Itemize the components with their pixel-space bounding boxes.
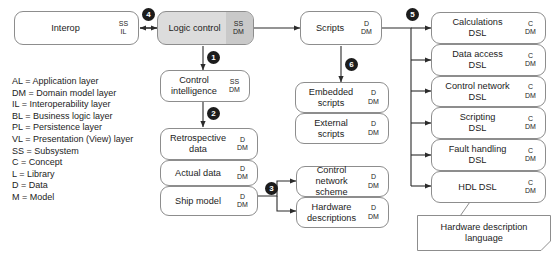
node-hardware-descriptions-title: Hardware descriptions xyxy=(297,202,361,224)
node-control-network-scheme[interactable]: Control network scheme D DM xyxy=(296,166,389,197)
node-control-network-dsl-title: Control network DSL xyxy=(432,81,518,103)
edge-ship-model-to-hardware-descriptions xyxy=(277,196,296,211)
node-hardware-descriptions-tag: D DM xyxy=(361,204,388,221)
node-logic-control-tag: SS DM xyxy=(226,12,253,44)
node-data-access-dsl-tag: C DM xyxy=(518,52,545,69)
node-control-network-scheme-title: Control network scheme xyxy=(297,165,361,198)
node-fault-handling-dsl-tag: C DM xyxy=(518,147,545,164)
abbreviation-legend: AL = Application layer DM = Domain model… xyxy=(12,76,133,204)
node-scripting-dsl[interactable]: Scripting DSL C DM xyxy=(431,107,546,139)
node-data-access-dsl-title: Data access DSL xyxy=(432,49,518,71)
legend-line-m: M = Model xyxy=(12,192,133,204)
legend-line-bl: BL = Business logic layer xyxy=(12,111,133,123)
note-hardware-description-language-text: Hardware description language xyxy=(441,222,528,245)
node-ship-model-tag: D DM xyxy=(230,193,257,210)
node-actual-data[interactable]: Actual data D DM xyxy=(160,160,258,186)
node-interop-tag: SS IL xyxy=(111,20,138,37)
node-control-intelligence[interactable]: Control intelligence SS DM xyxy=(160,70,250,102)
node-calculations-dsl[interactable]: Calculations DSL C DM xyxy=(431,12,546,44)
badge-2: 2 xyxy=(207,107,220,120)
badge-3: 3 xyxy=(265,182,278,195)
node-data-access-dsl[interactable]: Data access DSL C DM xyxy=(431,44,546,76)
badge-6: 6 xyxy=(345,58,358,71)
badge-1: 1 xyxy=(207,51,220,64)
node-ship-model-title: Ship model xyxy=(161,196,230,207)
node-retrospective-data[interactable]: Retrospective data D DM xyxy=(160,128,258,160)
node-scripts-title: Scripts xyxy=(301,23,354,34)
node-external-scripts[interactable]: External scripts D DM xyxy=(295,113,389,144)
node-embedded-scripts[interactable]: Embedded scripts D DM xyxy=(295,82,389,113)
node-retrospective-data-tag: D DM xyxy=(230,136,257,153)
node-control-intelligence-title: Control intelligence xyxy=(161,75,222,97)
node-control-network-dsl-tag: C DM xyxy=(518,83,545,100)
node-retrospective-data-title: Retrospective data xyxy=(161,133,230,155)
node-actual-data-title: Actual data xyxy=(161,168,230,179)
node-actual-data-tag: D DM xyxy=(230,165,257,182)
node-external-scripts-tag: D DM xyxy=(361,120,388,137)
badge-5: 5 xyxy=(406,8,419,21)
node-logic-control[interactable]: Logic control SS DM xyxy=(157,11,254,45)
node-control-network-scheme-tag: D DM xyxy=(361,173,388,190)
legend-line-d: D = Data xyxy=(12,180,133,192)
legend-line-vl: VL = Presentation (View) layer xyxy=(12,134,133,146)
node-embedded-scripts-title: Embedded scripts xyxy=(296,87,361,109)
node-control-intelligence-tag: SS DM xyxy=(222,78,249,95)
node-interop[interactable]: Interop SS IL xyxy=(14,11,139,45)
node-calculations-dsl-title: Calculations DSL xyxy=(432,17,518,39)
node-hdl-dsl-tag: C DM xyxy=(518,179,545,196)
legend-line-al: AL = Application layer xyxy=(12,76,133,88)
diagram-canvas: Interop SS IL Logic control SS DM Contro… xyxy=(0,0,559,257)
node-external-scripts-title: External scripts xyxy=(296,118,361,140)
node-interop-title: Interop xyxy=(15,23,111,34)
node-hdl-dsl-title: HDL DSL xyxy=(432,182,518,193)
legend-line-ss: SS = Subsystem xyxy=(12,146,133,158)
badge-4: 4 xyxy=(142,8,155,21)
legend-line-c: C = Concept xyxy=(12,157,133,169)
legend-line-il: IL = Interoperability layer xyxy=(12,99,133,111)
node-hdl-dsl[interactable]: HDL DSL C DM xyxy=(431,171,546,203)
node-logic-control-title: Logic control xyxy=(158,23,226,34)
node-scripts-tag: D DM xyxy=(354,20,381,37)
note-hardware-description-language: Hardware description language xyxy=(417,215,551,251)
node-fault-handling-dsl-title: Fault handling DSL xyxy=(432,144,518,166)
legend-line-dm: DM = Domain model layer xyxy=(12,88,133,100)
node-hardware-descriptions[interactable]: Hardware descriptions D DM xyxy=(296,197,389,228)
node-scripts[interactable]: Scripts D DM xyxy=(300,11,382,45)
node-fault-handling-dsl[interactable]: Fault handling DSL C DM xyxy=(431,139,546,171)
node-embedded-scripts-tag: D DM xyxy=(361,89,388,106)
legend-line-l: L = Library xyxy=(12,169,133,181)
node-ship-model[interactable]: Ship model D DM xyxy=(160,186,258,216)
node-calculations-dsl-tag: C DM xyxy=(518,20,545,37)
legend-line-pl: PL = Persistence layer xyxy=(12,122,133,134)
node-scripting-dsl-tag: C DM xyxy=(518,115,545,132)
node-scripting-dsl-title: Scripting DSL xyxy=(432,112,518,134)
node-control-network-dsl[interactable]: Control network DSL C DM xyxy=(431,76,546,107)
